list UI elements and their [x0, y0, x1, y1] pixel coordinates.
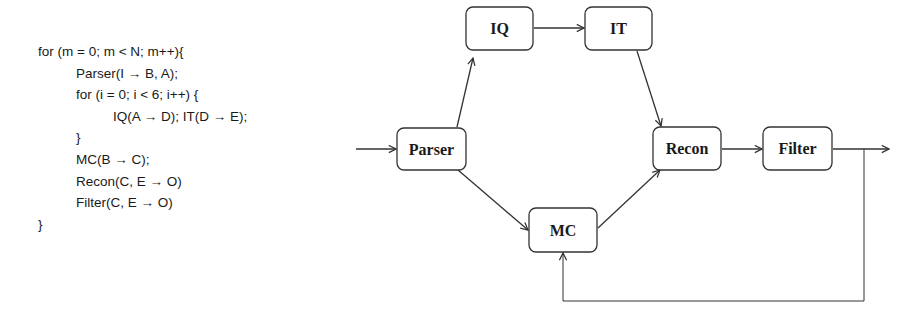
node-parser: Parser: [397, 128, 466, 170]
node-iq: IQ: [466, 7, 533, 50]
edge-it-recon: [637, 51, 661, 126]
node-filter-label: Filter: [778, 140, 816, 157]
node-mc: MC: [529, 208, 597, 252]
node-recon: Recon: [653, 127, 721, 170]
edge-parser-mc: [458, 170, 528, 230]
node-iq-label: IQ: [490, 20, 509, 37]
pipeline-diagram: Parser IQ IT MC Recon Filter: [0, 0, 920, 317]
edge-parser-iq: [457, 58, 473, 127]
node-recon-label: Recon: [666, 140, 709, 157]
edge-mc-recon: [598, 170, 660, 228]
node-parser-label: Parser: [409, 141, 454, 158]
node-it-label: IT: [610, 20, 627, 37]
node-it: IT: [585, 7, 652, 50]
node-filter: Filter: [763, 127, 832, 170]
edge-feedback-filter-mc: [563, 149, 864, 301]
node-mc-label: MC: [550, 222, 577, 239]
